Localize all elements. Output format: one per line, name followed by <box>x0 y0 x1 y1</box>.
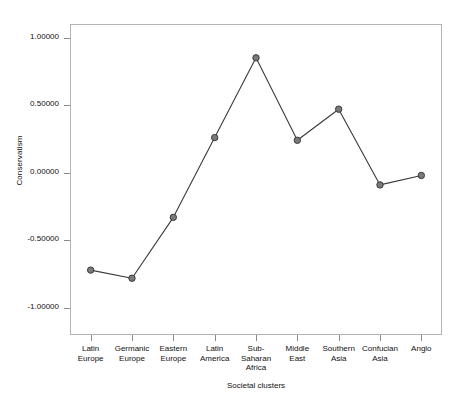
y-tick: 0.00000 <box>0 173 70 174</box>
y-tick-label: -0.50000 <box>27 234 59 243</box>
x-tick-label-line: Asia <box>349 354 411 364</box>
y-tick-mark <box>64 308 70 309</box>
x-tick-label: Anglo <box>390 344 452 354</box>
x-tick-mark <box>297 335 298 341</box>
x-axis-title: Societal clusters <box>70 381 442 390</box>
x-tick-mark <box>173 335 174 341</box>
plot-area <box>70 24 442 335</box>
x-tick-mark <box>380 335 381 341</box>
y-tick-mark <box>64 38 70 39</box>
x-tick-label-line: Africa <box>225 363 287 373</box>
y-tick-label: 1.00000 <box>30 32 59 41</box>
x-tick-label-line: Anglo <box>390 344 452 354</box>
x-tick-mark <box>339 335 340 341</box>
y-tick-label: 0.50000 <box>30 99 59 108</box>
y-tick-mark <box>64 105 70 106</box>
y-axis-title: Conservatism <box>15 106 24 216</box>
x-tick-mark <box>132 335 133 341</box>
y-tick: -0.50000 <box>0 240 70 241</box>
x-tick-mark <box>91 335 92 341</box>
y-tick-mark <box>64 173 70 174</box>
y-tick-label: -1.00000 <box>27 302 59 311</box>
y-tick: 1.00000 <box>0 38 70 39</box>
y-tick-mark <box>64 240 70 241</box>
y-tick: 0.50000 <box>0 105 70 106</box>
x-tick-mark <box>215 335 216 341</box>
y-tick-label: 0.00000 <box>30 167 59 176</box>
x-tick-mark <box>421 335 422 341</box>
x-tick-mark <box>256 335 257 341</box>
line-chart-figure: Conservatism 1.000000.500000.00000-0.500… <box>0 0 465 404</box>
y-tick: -1.00000 <box>0 308 70 309</box>
